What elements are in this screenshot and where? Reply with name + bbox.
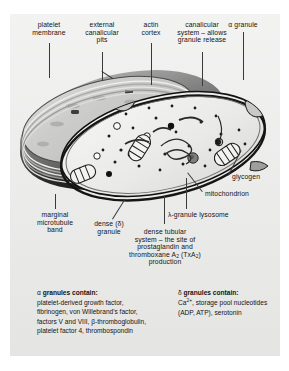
label-glycogen: glycogen <box>232 173 284 181</box>
calcium-charge: 2+ <box>186 298 192 303</box>
label-alpha-granule: α granule <box>218 21 268 29</box>
delta-granules-body: Ca2+, storage pool nucleotides (ADP, ATP… <box>178 298 282 317</box>
leader-external-canalicular-pits <box>102 52 103 81</box>
leader-lambda-granule-lysosome <box>186 178 187 209</box>
leader-actin-cortex <box>151 43 152 85</box>
platelet-diagram-figure: platelet membrane external canalicular p… <box>0 0 289 371</box>
leader-canalicular-system <box>202 52 203 86</box>
delta-granules-textbox: δ granules contain: Ca2+, storage pool n… <box>178 288 282 317</box>
label-mitochondrion: mitochondrion <box>205 190 283 198</box>
leader-alpha-granule <box>243 32 244 80</box>
leader-dense-tubular-system <box>164 196 165 224</box>
label-actin-cortex: actin cortex <box>132 21 170 36</box>
leader-platelet-membrane <box>49 43 50 78</box>
alpha-granules-textbox: α granules contain: platelet-derived gro… <box>37 288 155 335</box>
label-platelet-membrane: platelet membrane <box>18 21 80 36</box>
label-external-canalicular-pits: external canalicular pits <box>72 21 132 44</box>
label-dense-tubular-system-thromboxane: thromboxane A2 (TxA2) <box>110 251 220 259</box>
label-dense-tubular-system: dense tubular system – the site of prost… <box>110 228 220 266</box>
label-lambda-granule-lysosome: λ-granule lysosome <box>168 211 264 219</box>
leader-marginal-microtubule-band <box>55 194 56 209</box>
alpha-granules-heading: α granules contain: <box>37 288 155 297</box>
canalicular-mouth <box>250 162 268 171</box>
alpha-granules-body: platelet-derived growth factor, fibrinog… <box>37 298 155 335</box>
label-marginal-microtubule-band: marginal microtubule band <box>19 211 91 234</box>
delta-granules-heading: δ granules contain: <box>178 288 282 297</box>
